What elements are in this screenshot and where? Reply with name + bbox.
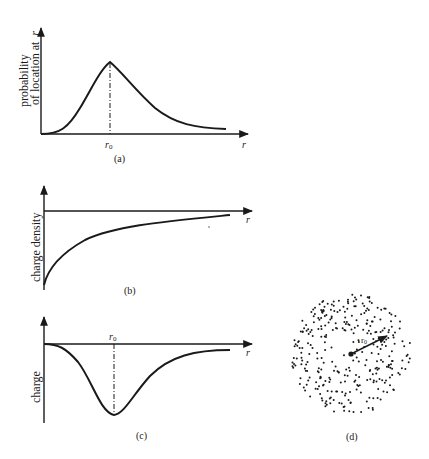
panel-a: probability of location at r r0 r (a) <box>17 28 248 165</box>
panel-d-r0-label: r0 <box>361 335 367 345</box>
panel-b-x-label: r <box>246 214 250 225</box>
panel-c-caption: (c) <box>136 430 147 442</box>
panel-c-r0-label: r0 <box>109 331 117 343</box>
panel-a-caption: (a) <box>114 153 125 165</box>
panel-b-charge-density-curve <box>44 215 230 285</box>
panel-b-caption: (b) <box>124 285 136 297</box>
panel-a-r0-label: r0 <box>105 139 113 151</box>
panel-a-x-label: r <box>242 139 246 150</box>
panel-d-caption: (d) <box>346 431 358 443</box>
panel-a-y-label-2: of location at r <box>28 31 42 105</box>
panel-a-probability-curve <box>41 62 226 134</box>
panel-c-charge-curve <box>44 344 230 415</box>
panel-c-y-label: charge <box>29 371 43 403</box>
panel-c-x-label: r <box>246 347 250 358</box>
panel-b-speck <box>208 226 210 228</box>
panel-c: charge r0 r (c) <box>29 317 252 442</box>
panel-b: charge density r (b) <box>29 186 252 297</box>
panel-b-y-label: charge density <box>29 213 43 282</box>
figure-canvas: probability of location at r r0 r (a) ch… <box>0 0 429 459</box>
panel-d: r0 (d) <box>292 294 411 443</box>
